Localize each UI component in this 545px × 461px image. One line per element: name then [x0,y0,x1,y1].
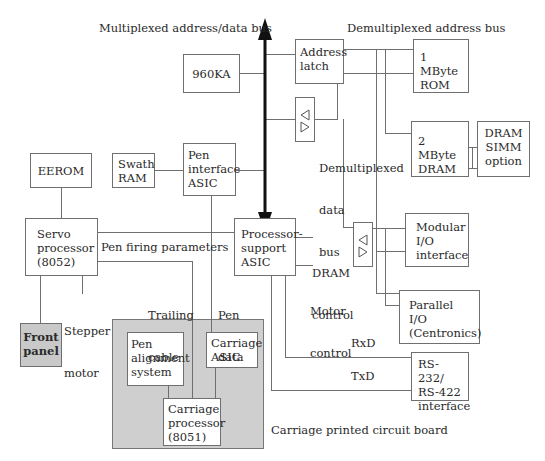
block-label: interface [416,248,458,262]
block-label: SIMM [478,140,529,154]
block-label: RS-422 [418,385,462,399]
label-line: data [319,203,404,217]
label-line: Pen [218,308,244,322]
block-label: I/O [409,312,470,326]
label-stepper-motor: Stepper motor [64,296,110,394]
block-processor-support-asic: Processor- support ASIC [234,218,296,276]
block-parallel-io: Parallel I/O (Centronics) [399,290,480,344]
label-pen-data: Pen data [218,280,244,378]
block-label: EEROM [38,164,85,178]
block-pen-interface-asic: Pen interface ASIC [183,143,236,196]
block-label: interface [188,162,231,176]
block-swath-ram: Swath RAM [112,153,155,188]
block-label: Carriage [168,402,216,416]
bidirectional-buffer-icon [296,98,314,141]
block-label: 1 MByte [420,50,462,78]
block-1mbyte-rom: 1 MByte ROM [413,39,469,93]
label-pen-firing-parameters: Pen firing parameters [101,240,228,254]
block-label: ASIC [188,176,231,190]
label-txd: TxD [351,369,374,383]
block-2mbyte-dram: 2 MByte DRAM [411,121,469,177]
block-label: DRAM [478,126,529,140]
block-960ka: 960KA [183,54,240,93]
block-label: (8051) [168,430,216,444]
label-line: Demultiplexed [319,161,404,175]
block-carriage-processor: Carriage processor (8051) [163,398,221,446]
label-carriage-pcb: Carriage printed circuit board [271,423,448,437]
label-line: Motor [310,304,352,318]
block-modular-io-interface: Modular I/O interface [405,213,469,267]
block-rs232-rs422-interface: RS-232/ RS-422 interface [411,352,469,401]
block-label: processor [37,241,86,255]
block-label: Front [21,330,61,344]
block-eerom: EEROM [30,153,92,188]
block-label: Parallel [409,298,470,312]
block-label: 960KA [192,67,230,81]
block-label: 2 MByte [418,134,462,162]
block-label: DRAM [418,162,462,176]
block-address-latch: Address latch [295,39,344,84]
block-label: Swath [118,157,149,171]
block-label: panel [21,344,61,358]
label-line: Stepper [64,324,110,338]
block-label: (8052) [37,255,86,269]
label-line: data [218,350,244,364]
block-label: Pen [188,148,231,162]
block-label: option [478,154,529,168]
block-label: I/O [416,234,458,248]
block-label: latch [300,59,339,73]
block-label: ROM [420,78,462,92]
block-label: ASIC [241,255,289,269]
block-front-panel: Front panel [20,323,62,367]
block-label: (Centronics) [409,326,470,340]
block-label: processor [168,416,216,430]
block-servo-processor: Servo processor (8052) [25,218,98,276]
label-motor-control: Motor control [310,276,352,374]
transceiver-upper [295,97,315,142]
block-label: RAM [118,171,149,185]
label-trailing-cable: Trailing cable [148,280,194,378]
block-label: Modular [416,220,458,234]
block-label: Processor- [241,227,289,241]
label-demux-address-bus: Demultiplexed address bus [347,21,505,35]
label-rxd: RxD [351,336,375,350]
block-dram-simm-option: DRAM SIMM option [477,121,530,177]
block-label: support [241,241,289,255]
label-line: Trailing [148,308,194,322]
block-label: Servo [37,227,86,241]
block-label: RS-232/ [418,357,462,385]
label-line: control [310,346,352,360]
label-line: motor [64,366,110,380]
label-line: cable [148,350,194,364]
block-label: Address [300,45,339,59]
label-multiplexed-bus: Multiplexed address/data bus [99,21,272,35]
block-label: interface [418,399,462,413]
